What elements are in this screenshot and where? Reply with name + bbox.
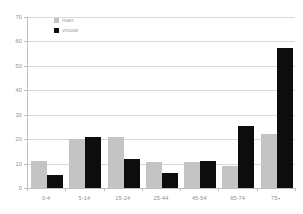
y-axis-tick-label: 20 [0, 136, 22, 142]
x-axis-tick-label: 0-4 [26, 195, 66, 202]
y-axis-tick-label: 0 [0, 185, 22, 191]
y-axis-tick-label: 70 [0, 14, 22, 20]
y-axis-tick-label: 60 [0, 38, 22, 44]
x-axis-tick-mark [257, 188, 258, 191]
bar-group [142, 17, 180, 188]
bar-man-25-44[interactable] [146, 162, 162, 188]
x-axis-tick-label: 15-24 [103, 195, 143, 202]
x-axis-tick-label: 5-14 [64, 195, 104, 202]
bar-vrouw-45-54[interactable] [200, 161, 216, 188]
x-axis-tick-mark [218, 188, 219, 191]
bar-man-65-74[interactable] [222, 166, 238, 188]
x-axis-tick-mark [180, 188, 181, 191]
bar-group [257, 17, 295, 188]
bar-chart: 010203040506070 0-45-1415-2425-4445-5465… [0, 0, 303, 214]
bar-man-45-54[interactable] [184, 162, 200, 188]
y-axis-tick-label: 50 [0, 63, 22, 69]
bar-group [180, 17, 218, 188]
legend: man vrouw [54, 16, 78, 36]
legend-label-vrouw: vrouw [62, 27, 78, 34]
bar-group [104, 17, 142, 188]
x-axis-tick-mark [65, 188, 66, 191]
bar-man-15-24[interactable] [108, 137, 124, 188]
y-axis-tick-label: 10 [0, 161, 22, 167]
bar-vrouw-25-44[interactable] [162, 173, 178, 188]
legend-item-vrouw[interactable]: vrouw [54, 26, 78, 35]
bar-group [27, 17, 65, 188]
x-axis-tick-label: 75+ [256, 195, 296, 202]
x-axis-line [27, 188, 295, 189]
bar-vrouw-75+[interactable] [277, 48, 293, 188]
y-axis-tick-label: 30 [0, 112, 22, 118]
bar-vrouw-65-74[interactable] [238, 126, 254, 188]
bar-vrouw-15-24[interactable] [124, 159, 140, 188]
x-axis-tick-label: 25-44 [141, 195, 181, 202]
x-axis-tick-mark [27, 188, 28, 191]
bar-man-5-14[interactable] [69, 139, 85, 188]
legend-item-man[interactable]: man [54, 16, 78, 25]
legend-label-man: man [62, 17, 74, 24]
bar-vrouw-0-4[interactable] [47, 175, 63, 188]
x-axis-tick-mark [104, 188, 105, 191]
x-axis-tick-label: 65-74 [218, 195, 258, 202]
x-axis-tick-mark [295, 188, 296, 191]
bar-group [218, 17, 256, 188]
legend-swatch-vrouw-icon [54, 28, 59, 33]
bar-man-75+[interactable] [261, 134, 277, 188]
x-axis-tick-label: 45-54 [179, 195, 219, 202]
x-axis-tick-mark [142, 188, 143, 191]
legend-swatch-man-icon [54, 18, 59, 23]
bar-vrouw-5-14[interactable] [85, 137, 101, 188]
bar-group [65, 17, 103, 188]
y-axis-tick-label: 40 [0, 87, 22, 93]
bars-layer [27, 17, 295, 188]
bar-man-0-4[interactable] [31, 161, 47, 188]
